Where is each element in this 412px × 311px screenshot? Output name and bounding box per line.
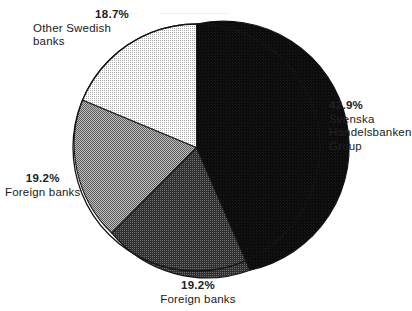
- slice-label-other-swedish-banks: 18.7% Other Swedish banks: [33, 8, 129, 49]
- slice-name-foreign-banks-left: Foreign banks: [5, 186, 80, 200]
- slice-name-other-swedish-banks-line2: banks: [33, 35, 129, 49]
- slice-label-foreign-banks-bottom: 19.2% Foreign banks: [140, 279, 256, 306]
- slice-percent-svenska-handelsbanken-group: 42.9%: [329, 99, 412, 113]
- slice-name-svenska-line1: Svenska: [329, 113, 412, 127]
- slice-label-svenska-handelsbanken-group: 42.9% Svenska Handelsbanken Group: [329, 99, 412, 153]
- slice-name-svenska-line3: Group: [329, 140, 412, 154]
- slice-percent-foreign-banks-bottom: 19.2%: [140, 279, 256, 293]
- slice-percent-other-swedish-banks: 18.7%: [33, 8, 129, 22]
- slice-name-foreign-banks-bottom: Foreign banks: [140, 293, 256, 307]
- slice-name-other-swedish-banks-line1: Other Swedish: [33, 22, 129, 36]
- slice-label-foreign-banks-left: 19.2% Foreign banks: [5, 172, 80, 199]
- scan-artifact: [160, 13, 230, 14]
- slice-percent-foreign-banks-left: 19.2%: [5, 172, 80, 186]
- slice-name-svenska-line2: Handelsbanken: [329, 126, 412, 140]
- pie-chart-figure: 18.7% Other Swedish banks 42.9% Svenska …: [0, 0, 412, 311]
